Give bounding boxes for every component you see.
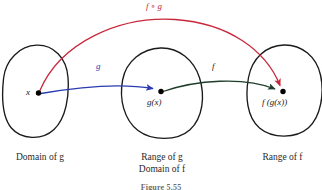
arrow-path-f: [163, 81, 275, 91]
point-gx: [158, 89, 163, 94]
figure-caption: Figure 5.55: [0, 183, 322, 190]
arrow-label-g: g: [96, 61, 101, 71]
set-caption-range-of-g: Range of g: [118, 151, 206, 163]
point-x: [36, 90, 41, 95]
arrow-path-g: [41, 86, 153, 94]
point-fgx: [280, 89, 285, 94]
point-label-x: x: [26, 87, 30, 97]
arrow-path-composite: [40, 19, 281, 91]
set-caption-domain-of-g: Domain of g: [0, 151, 80, 163]
set-caption-domain-of-f: Domain of f: [118, 163, 206, 175]
arrow-label-f: f: [212, 61, 215, 71]
figure-container: x g(x) f (g(x)) g f f ∘ g Domain of g Ra…: [0, 0, 322, 190]
point-label-gx: g(x): [147, 97, 162, 107]
arrow-label-composite: f ∘ g: [146, 1, 162, 11]
set-caption-range-of-f: Range of f: [243, 151, 322, 163]
point-label-fgx: f (g(x)): [262, 97, 287, 107]
